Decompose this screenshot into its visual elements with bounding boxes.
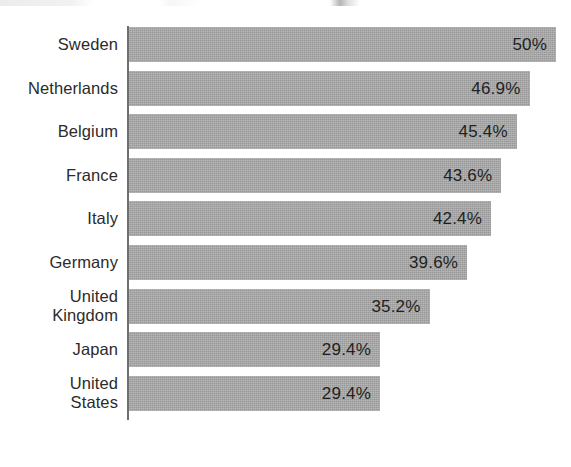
category-label: France xyxy=(0,166,118,185)
category-label: Netherlands xyxy=(0,79,118,98)
category-label: UnitedStates xyxy=(0,374,118,412)
bar-value-label: 29.4% xyxy=(129,332,380,367)
plot-area: Sweden50%Netherlands46.9%Belgium45.4%Fra… xyxy=(0,0,571,467)
bar-value-label: 43.6% xyxy=(129,158,501,193)
bar-row: Italy42.4% xyxy=(0,201,571,236)
category-label: Sweden xyxy=(0,35,118,54)
bar-value-label: 29.4% xyxy=(129,376,380,411)
bar-row: UnitedKingdom35.2% xyxy=(0,289,571,324)
bar-row: Netherlands46.9% xyxy=(0,71,571,106)
category-label-line: Netherlands xyxy=(0,79,118,98)
bar-row: Sweden50% xyxy=(0,27,571,62)
bar-chart: Sweden50%Netherlands46.9%Belgium45.4%Fra… xyxy=(0,0,571,467)
category-label-line: Japan xyxy=(0,340,118,359)
category-label-line: Belgium xyxy=(0,122,118,141)
category-label-line: Sweden xyxy=(0,35,118,54)
bar-row: France43.6% xyxy=(0,158,571,193)
category-label-line: States xyxy=(0,393,118,412)
category-label: UnitedKingdom xyxy=(0,287,118,325)
bar-row: UnitedStates29.4% xyxy=(0,376,571,411)
bar-value-label: 39.6% xyxy=(129,245,467,280)
bar-row: Japan29.4% xyxy=(0,332,571,367)
category-label-line: Kingdom xyxy=(0,306,118,325)
category-label-line: United xyxy=(0,374,118,393)
bar-value-label: 42.4% xyxy=(129,201,491,236)
category-label-line: United xyxy=(0,287,118,306)
bar-value-label: 46.9% xyxy=(129,71,530,106)
bar-row: Germany39.6% xyxy=(0,245,571,280)
bar-value-label: 35.2% xyxy=(129,289,430,324)
category-label-line: Italy xyxy=(0,209,118,228)
category-label-line: Germany xyxy=(0,253,118,272)
category-label: Japan xyxy=(0,340,118,359)
bar-value-label: 45.4% xyxy=(129,114,517,149)
bar-value-label: 50% xyxy=(129,27,556,62)
category-label: Italy xyxy=(0,209,118,228)
category-label: Germany xyxy=(0,253,118,272)
category-label: Belgium xyxy=(0,122,118,141)
bar-row: Belgium45.4% xyxy=(0,114,571,149)
category-label-line: France xyxy=(0,166,118,185)
